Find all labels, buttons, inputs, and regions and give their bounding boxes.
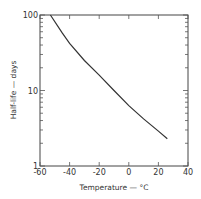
- y-tick-label: 10: [28, 87, 38, 96]
- x-tick-label: -40: [63, 168, 76, 177]
- x-tick-label: 40: [183, 168, 193, 177]
- chart: -60-40-2002040110100 Temperature — °C Ha…: [0, 0, 201, 199]
- x-tick-label: 20: [153, 168, 163, 177]
- half-life-curve: [50, 15, 167, 139]
- x-tick-label: -20: [93, 168, 106, 177]
- y-tick-label: 100: [23, 11, 38, 20]
- tick-labels: -60-40-2002040110100: [23, 11, 193, 177]
- y-tick-label: 1: [33, 162, 38, 171]
- x-tick-label: 0: [126, 168, 131, 177]
- y-axis-title: Half-life — days: [9, 61, 18, 120]
- x-axis-title: Temperature — °C: [79, 183, 149, 192]
